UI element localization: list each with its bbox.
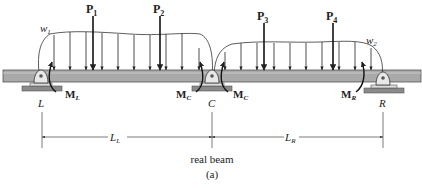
label-support-r: R [378,97,386,109]
label-p3: P3 [257,9,268,25]
dimension-extension-lines [42,112,383,148]
label-p1: P1 [86,2,97,18]
continuous-beam-diagram: P1 P2 P3 P4 w1 w2 ML MC MC MR L C R [0,0,422,188]
label-mr: MR [341,88,356,102]
label-p2: P2 [153,2,164,18]
label-w2: w2 [366,34,377,48]
label-mc-left: MC [176,88,191,102]
label-support-c: C [208,97,216,109]
label-w1: w1 [40,22,51,36]
label-dim-lr: LR [284,131,296,145]
label-dim-ll: LL [109,131,120,145]
figure-caption: real beam [190,153,233,165]
label-p4: P4 [326,9,337,25]
label-ml: ML [65,88,80,102]
label-mc-right: MC [233,88,248,102]
label-support-l: L [37,97,44,109]
point-loads [93,16,333,70]
figure-sublabel: (a) [206,168,219,181]
